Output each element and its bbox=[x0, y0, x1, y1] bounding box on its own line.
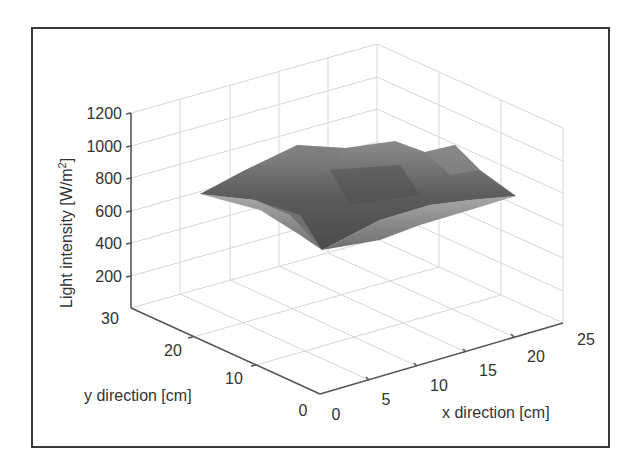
svg-text:5: 5 bbox=[382, 391, 391, 408]
svg-text:1200: 1200 bbox=[86, 105, 122, 122]
svg-text:10: 10 bbox=[225, 370, 243, 387]
svg-text:25: 25 bbox=[577, 331, 595, 348]
svg-text:20: 20 bbox=[164, 342, 182, 359]
svg-text:200: 200 bbox=[95, 268, 122, 285]
svg-text:20: 20 bbox=[527, 348, 545, 365]
z-axis-label: Light intensity [W/m2] bbox=[56, 158, 75, 308]
svg-text:30: 30 bbox=[101, 310, 119, 327]
surface-plot-3d: 1200 1000 800 600 400 200 30 20 10 0 0 5… bbox=[0, 0, 643, 469]
x-axis-label: x direction [cm] bbox=[442, 404, 550, 421]
surface bbox=[200, 141, 516, 250]
svg-text:600: 600 bbox=[95, 203, 122, 220]
z-tick-labels: 1200 1000 800 600 400 200 bbox=[86, 105, 122, 285]
svg-text:0: 0 bbox=[332, 406, 341, 423]
svg-text:15: 15 bbox=[479, 362, 497, 379]
svg-text:0: 0 bbox=[299, 402, 308, 419]
svg-text:10: 10 bbox=[430, 377, 448, 394]
y-axis-label: y direction [cm] bbox=[84, 387, 192, 404]
svg-text:1000: 1000 bbox=[86, 138, 122, 155]
svg-text:400: 400 bbox=[95, 235, 122, 252]
svg-text:800: 800 bbox=[95, 170, 122, 187]
